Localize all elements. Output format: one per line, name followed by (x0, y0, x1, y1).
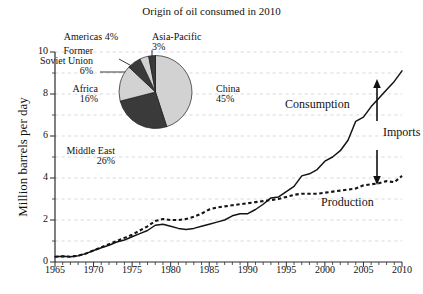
x-tick-label: 1970 (74, 265, 114, 276)
pie-wedges (119, 56, 192, 129)
y-tick-label: 4 (18, 172, 48, 183)
y-tick-label: 10 (18, 46, 48, 57)
consumption-annotation: Consumption (285, 98, 350, 111)
x-tick-label: 2000 (305, 265, 345, 276)
figure-root: Origin of oil consumed in 2010 Million b… (0, 0, 423, 294)
imports-annotation: Imports (383, 126, 420, 139)
pie-label-china-pct: 45% (216, 94, 234, 105)
y-tick-label: 2 (18, 214, 48, 225)
x-tick-label: 1985 (189, 265, 229, 276)
y-tick-label: 0 (18, 256, 48, 267)
production-series-line (55, 176, 402, 257)
y-tick-label: 8 (18, 88, 48, 99)
imports-double-arrow (373, 79, 381, 185)
x-tick-label: 1990 (228, 265, 268, 276)
y-tick-label: 6 (18, 130, 48, 141)
x-tick-label: 1975 (112, 265, 152, 276)
pie-label-asia-pacific-pct: 3% (152, 42, 165, 53)
production-annotation: Production (321, 196, 374, 209)
x-tick-label: 2010 (382, 265, 422, 276)
x-tick-label: 2005 (343, 265, 383, 276)
pie-label-fsu-pct: 6% (8, 66, 93, 77)
pie-label-americas: Americas 4% (26, 32, 118, 43)
pie-label-middle-east-pct: 26% (10, 156, 115, 167)
x-tick-label: 1995 (266, 265, 306, 276)
x-tick-label: 1980 (151, 265, 191, 276)
